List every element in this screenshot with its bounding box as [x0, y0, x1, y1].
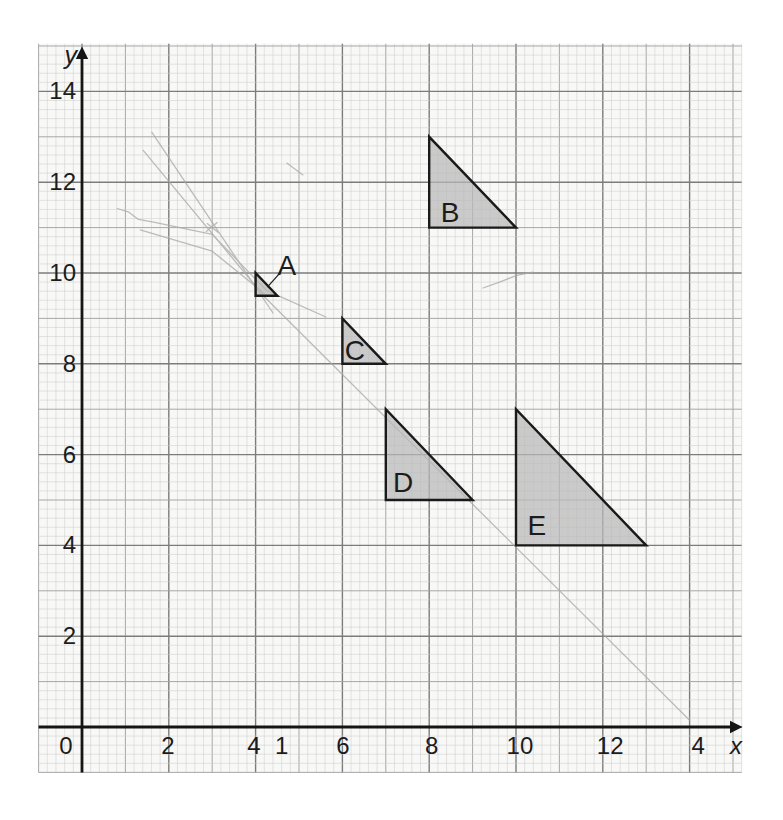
triangle-C-label: C — [345, 335, 365, 366]
x-tick-label: 10 — [507, 732, 534, 759]
x-tick-label: 12 — [597, 732, 624, 759]
x-tick-label: 0 — [59, 732, 72, 759]
triangle-D-label: D — [393, 467, 413, 498]
y-tick-label: 12 — [49, 168, 76, 195]
x-tick-label: 1 — [275, 732, 288, 759]
x-tick-label: 4 — [247, 732, 260, 759]
triangle-E-label: E — [527, 510, 546, 541]
triangle-A-label: A — [278, 250, 297, 281]
x-tick-label: 6 — [336, 732, 349, 759]
y-tick-label: 10 — [49, 259, 76, 286]
y-tick-label: 8 — [63, 350, 76, 377]
x-tick-label: 2 — [161, 732, 174, 759]
triangle-B-label: B — [441, 197, 460, 228]
y-tick-label: 14 — [49, 77, 76, 104]
scanned-worksheet-page: 024168101241412108642xyABCDE — [0, 0, 783, 820]
y-tick-label: 2 — [63, 622, 76, 649]
y-tick-label: 6 — [63, 441, 76, 468]
y-axis-label: y — [63, 41, 79, 69]
x-axis-label: x — [729, 732, 743, 759]
coordinate-grid-figure: 024168101241412108642xyABCDE — [0, 0, 783, 820]
x-tick-label: 8 — [425, 732, 438, 759]
y-tick-label: 4 — [63, 531, 76, 558]
x-tick-label: 4 — [692, 732, 705, 759]
graph-paper — [39, 44, 742, 773]
